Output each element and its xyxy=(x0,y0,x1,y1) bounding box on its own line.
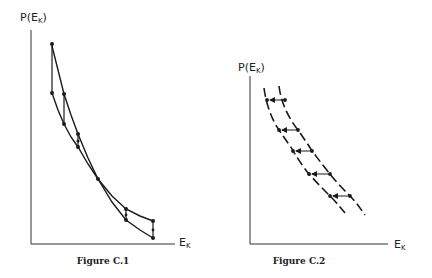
c1-vertical-links xyxy=(52,44,153,238)
figure-c2 xyxy=(250,76,388,244)
c2-x-axis-label: EK xyxy=(394,238,406,252)
c2-data-points xyxy=(265,98,352,198)
c1-y-axis-label: P(EK) xyxy=(20,11,47,25)
c1-data-points xyxy=(50,42,155,240)
c2-y-axis-label: P(EK) xyxy=(238,61,265,75)
figure-c1 xyxy=(31,30,175,244)
c1-x-axis-label: EK xyxy=(179,236,191,250)
c1-upper-curve xyxy=(52,46,153,221)
figures-canvas xyxy=(0,0,432,278)
c1-caption: Figure C.1 xyxy=(77,256,130,266)
c1-lower-curve xyxy=(52,93,153,238)
c2-caption: Figure C.2 xyxy=(273,256,326,266)
